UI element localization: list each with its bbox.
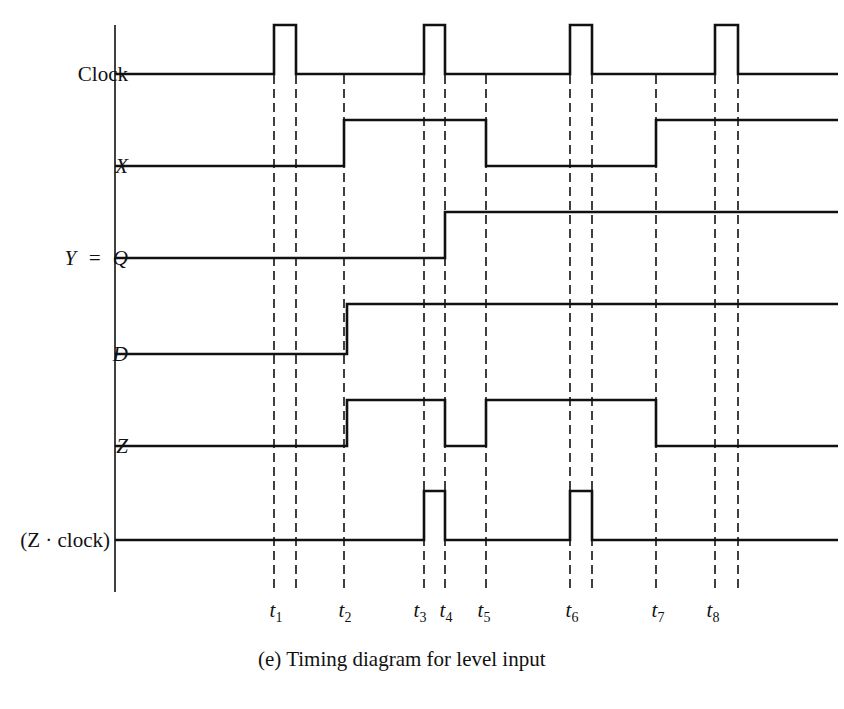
- time-marker-t5: t5: [478, 600, 491, 625]
- waveform-2: [115, 212, 838, 258]
- waveform-5: [115, 491, 838, 540]
- time-marker-t2: t2: [339, 600, 352, 625]
- signal-label-d: D: [0, 344, 128, 365]
- time-marker-t4: t4: [440, 600, 453, 625]
- time-marker-t7: t7: [652, 600, 665, 625]
- waveform-0: [115, 25, 838, 74]
- signal-label-z: Z: [0, 436, 128, 457]
- figure-caption: (e) Timing diagram for level input: [258, 647, 546, 672]
- time-marker-t1: t1: [270, 600, 283, 625]
- signal-label-x: X: [0, 156, 128, 177]
- signal-label-y-q: Y = Q: [0, 248, 128, 269]
- waveform-4: [115, 400, 838, 446]
- time-marker-t6: t6: [566, 600, 579, 625]
- waveform-1: [115, 120, 838, 166]
- waveform-3: [115, 304, 838, 354]
- time-marker-t8: t8: [707, 600, 720, 625]
- signal-label-clock: Clock: [0, 64, 128, 85]
- time-marker-t3: t3: [414, 600, 427, 625]
- signal-label-z-clock: (Z · clock): [0, 530, 110, 551]
